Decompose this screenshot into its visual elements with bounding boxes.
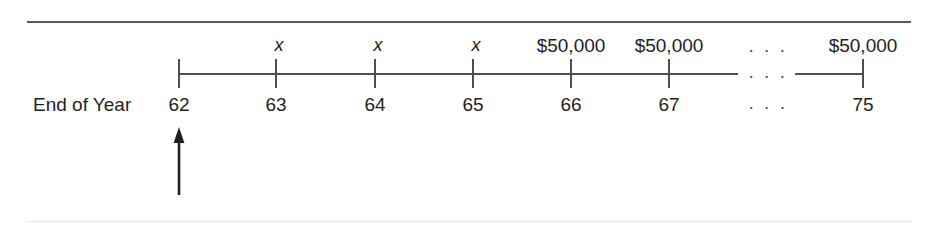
- axis-title-end-of-year: End of Year: [33, 95, 131, 114]
- cash-flow-label-year-65: x: [446, 36, 506, 54]
- cash-flow-label-year-67: $50,000: [619, 36, 719, 55]
- up-arrow-marker: [172, 127, 186, 195]
- tick-mark-year-64: [374, 59, 376, 88]
- timeline-axis-right-segment: [795, 73, 863, 75]
- tick-mark-year-62: [178, 59, 180, 88]
- year-label-65: 65: [443, 95, 503, 114]
- cash-flow-label-year-66: $50,000: [521, 36, 621, 55]
- tick-mark-year-67: [668, 59, 670, 88]
- year-label-67: 67: [639, 95, 699, 114]
- year-label-62: 62: [149, 95, 209, 114]
- tick-mark-year-75: [862, 59, 864, 88]
- cash-flow-label-year-63: x: [249, 36, 309, 54]
- year-label-64: 64: [345, 95, 405, 114]
- axis-break-ellipsis: · · ·: [748, 66, 788, 85]
- cash-flow-label-year-64: x: [348, 36, 408, 54]
- cash-flow-ellipsis: · · ·: [748, 40, 788, 59]
- cash-flow-label-year-75: $50,000: [813, 36, 913, 55]
- timeline-axis-left-segment: [178, 73, 738, 75]
- tick-mark-year-65: [472, 59, 474, 88]
- top-horizontal-rule: [27, 21, 911, 23]
- tick-mark-year-63: [275, 59, 277, 88]
- year-label-63: 63: [246, 95, 306, 114]
- year-ellipsis: · · ·: [748, 97, 788, 116]
- cash-flow-timeline-figure: x x x $50,000 $50,000 $50,000 · · · · · …: [0, 0, 937, 226]
- year-label-75: 75: [833, 95, 893, 114]
- year-label-66: 66: [541, 95, 601, 114]
- tick-mark-year-66: [570, 59, 572, 88]
- bottom-horizontal-rule: [27, 221, 911, 222]
